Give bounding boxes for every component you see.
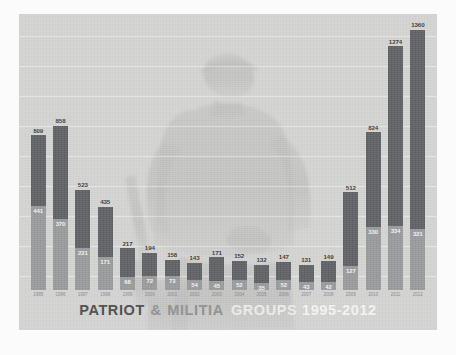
x-axis-tick-label: 2007: [301, 292, 311, 297]
title-word-militia: MILITIA: [167, 302, 223, 318]
x-axis-tick-label: 2003: [212, 292, 222, 297]
x-axis-tick-label: 2009: [346, 292, 356, 297]
bar-militia-segment: 52: [276, 280, 291, 290]
bar-total-value-label: 809: [33, 127, 43, 134]
bar-militia-value-label: 42: [325, 282, 331, 290]
title-ampersand: &: [150, 302, 163, 318]
title-word-groups: GROUPS: [228, 302, 297, 318]
bar-militia-value-label: 321: [413, 229, 423, 237]
bar-column: 42149: [321, 22, 336, 290]
bar-total-value-label: 194: [145, 244, 155, 251]
bar-total-segment: 321: [410, 30, 425, 290]
bar-column: 3341274: [388, 22, 403, 290]
bar-column: 127512: [343, 22, 358, 290]
bar-column: 441809: [31, 22, 46, 290]
bar-column: 171435: [98, 22, 113, 290]
bar-total-value-label: 158: [167, 251, 177, 258]
poster-image: 4418093708582215231714356821772194731585…: [0, 0, 456, 355]
bar-militia-segment: 221: [75, 248, 90, 290]
bar-total-value-label: 143: [189, 254, 199, 261]
bar-total-segment: 45: [209, 257, 224, 290]
bar-militia-segment: 43: [299, 282, 314, 290]
bar-total-value-label: 512: [346, 184, 356, 191]
bar-militia-segment: 54: [187, 280, 202, 290]
bar-column: 43131: [299, 22, 314, 290]
x-axis-tick-label: 2008: [323, 292, 333, 297]
bar-total-segment: 68: [120, 248, 135, 290]
bar-total-segment: 52: [276, 262, 291, 290]
bar-total-segment: 334: [388, 46, 403, 290]
bar-militia-segment: 68: [120, 277, 135, 290]
x-axis-year-labels: 1995199619971998199920002001200220032004…: [27, 290, 429, 302]
bar-total-segment: 43: [299, 265, 314, 290]
bar-column: 52147: [276, 22, 291, 290]
bar-total-segment: 52: [232, 261, 247, 290]
x-axis-tick-label: 1996: [55, 292, 65, 297]
bar-militia-value-label: 221: [78, 248, 88, 256]
bar-militia-value-label: 52: [236, 280, 242, 288]
title-word-patriot: PATRIOT: [79, 302, 145, 318]
bar-total-value-label: 147: [279, 253, 289, 260]
x-axis-tick-label: 2012: [413, 292, 423, 297]
bar-total-segment: 441: [31, 135, 46, 290]
bar-total-value-label: 824: [368, 124, 378, 131]
bar-militia-segment: 127: [343, 266, 358, 290]
bar-column: 72194: [142, 22, 157, 290]
bar-total-segment: 42: [321, 261, 336, 290]
bar-total-value-label: 217: [122, 240, 132, 247]
x-axis-tick-label: 2005: [256, 292, 266, 297]
bar-militia-segment: 334: [388, 226, 403, 290]
bar-militia-value-label: 334: [391, 226, 401, 234]
bar-militia-value-label: 127: [346, 266, 356, 274]
bar-militia-segment: 72: [142, 276, 157, 290]
bar-total-value-label: 149: [323, 253, 333, 260]
bar-militia-segment: 441: [31, 206, 46, 290]
x-axis-tick-label: 2011: [391, 292, 401, 297]
bar-militia-value-label: 370: [56, 219, 66, 227]
bar-militia-value-label: 52: [281, 280, 287, 288]
bar-militia-segment: 370: [53, 219, 68, 290]
bar-column: 45171: [209, 22, 224, 290]
bar-total-segment: 72: [142, 253, 157, 290]
bar-militia-value-label: 54: [191, 280, 197, 288]
chart-plate: 4418093708582215231714356821772194731585…: [19, 14, 437, 330]
bar-militia-value-label: 45: [214, 281, 220, 289]
bar-total-value-label: 858: [55, 117, 65, 124]
bar-militia-value-label: 68: [124, 277, 130, 285]
bar-total-segment: 35: [254, 265, 269, 290]
bar-plot-area: 4418093708582215231714356821772194731585…: [27, 22, 429, 290]
bar-total-value-label: 523: [78, 181, 88, 188]
bar-militia-segment: 42: [321, 282, 336, 290]
bar-column: 54143: [187, 22, 202, 290]
bar-militia-segment: 171: [98, 257, 113, 290]
bar-column: 35132: [254, 22, 269, 290]
bar-militia-value-label: 441: [33, 206, 43, 214]
bar-total-segment: 171: [98, 207, 113, 290]
x-axis-tick-label: 1995: [33, 292, 43, 297]
bar-militia-value-label: 43: [303, 282, 309, 290]
bar-militia-segment: 73: [165, 276, 180, 290]
x-axis-tick-label: 2006: [279, 292, 289, 297]
x-axis-tick-label: 1999: [122, 292, 132, 297]
bar-total-segment: 370: [53, 126, 68, 290]
bar-total-segment: 330: [366, 132, 381, 290]
bar-column: 221523: [75, 22, 90, 290]
bar-total-value-label: 435: [100, 198, 110, 205]
bar-militia-segment: 45: [209, 281, 224, 290]
x-axis-tick-label: 1997: [78, 292, 88, 297]
bar-total-segment: 127: [343, 192, 358, 290]
x-axis-tick-label: 2010: [368, 292, 378, 297]
bar-militia-value-label: 330: [368, 227, 378, 235]
x-axis-tick-label: 2000: [145, 292, 155, 297]
bar-total-value-label: 152: [234, 252, 244, 259]
bar-column: 370858: [53, 22, 68, 290]
bar-militia-value-label: 73: [169, 276, 175, 284]
bar-total-segment: 221: [75, 190, 90, 290]
bar-column: 330824: [366, 22, 381, 290]
bar-total-segment: 73: [165, 260, 180, 290]
bar-militia-segment: 52: [232, 280, 247, 290]
bar-total-value-label: 1360: [411, 21, 424, 28]
bar-column: 68217: [120, 22, 135, 290]
chart-title: PATRIOT & MILITIA GROUPS 1995-2012: [19, 302, 437, 318]
bar-column: 52152: [232, 22, 247, 290]
